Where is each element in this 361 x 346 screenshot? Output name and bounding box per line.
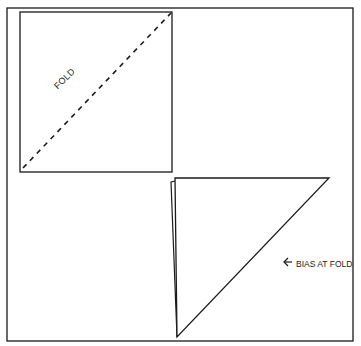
folded-triangle xyxy=(175,178,329,337)
fold-dashed-line xyxy=(23,13,171,168)
fold-diagram xyxy=(0,0,361,346)
bias-at-fold-label: BIAS AT FOLD xyxy=(296,259,352,269)
arrow-icon xyxy=(284,258,292,266)
